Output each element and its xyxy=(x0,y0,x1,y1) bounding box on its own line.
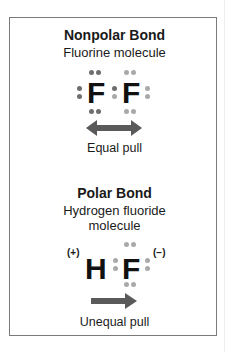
electron-dot xyxy=(124,109,129,114)
partial-negative-charge: (−) xyxy=(153,247,166,258)
electron-dot xyxy=(145,86,150,91)
electron-dot xyxy=(112,86,117,91)
electron-dot xyxy=(89,109,94,114)
electron-dot xyxy=(77,86,82,91)
atom-f-left: F xyxy=(87,78,105,108)
electron-dot xyxy=(131,242,136,247)
electron-dot xyxy=(145,94,150,99)
partial-positive-charge: (+) xyxy=(67,247,80,258)
electron-dot xyxy=(131,70,136,75)
polar-subtitle-line2: molecule xyxy=(0,218,229,234)
electron-dot xyxy=(124,70,129,75)
electron-dot xyxy=(96,109,101,114)
diagram-frame xyxy=(9,17,217,336)
electron-dot xyxy=(96,70,101,75)
electron-dot xyxy=(124,242,129,247)
polar-caption: Unequal pull xyxy=(0,315,229,329)
double-headed-arrow-icon xyxy=(86,120,142,136)
electron-dot xyxy=(113,258,118,263)
electron-dot xyxy=(124,282,129,287)
atom-f-right: F xyxy=(122,78,140,108)
electron-dot xyxy=(145,258,150,263)
polar-title: Polar Bond xyxy=(0,185,229,201)
electron-dot xyxy=(89,70,94,75)
electron-dot xyxy=(131,109,136,114)
electron-dot xyxy=(145,266,150,271)
nonpolar-title: Nonpolar Bond xyxy=(0,27,229,43)
electron-dot xyxy=(131,282,136,287)
atom-f: F xyxy=(122,254,140,284)
right-arrow-icon xyxy=(91,293,137,309)
atom-h: H xyxy=(85,254,107,284)
electron-dot xyxy=(112,94,117,99)
electron-dot xyxy=(113,266,118,271)
nonpolar-subtitle: Fluorine molecule xyxy=(0,45,229,61)
nonpolar-caption: Equal pull xyxy=(0,141,229,155)
polar-subtitle-line1: Hydrogen fluoride xyxy=(0,203,229,219)
electron-dot xyxy=(77,94,82,99)
